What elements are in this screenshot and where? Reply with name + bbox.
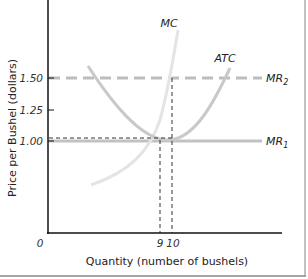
mr1-label-main: MR [266,135,283,148]
mc-label: MC [160,17,177,30]
mr2-label: MR2 [266,72,288,87]
y-tick-label-1-50: 1.50 [20,72,44,84]
chart: 1.50 1.25 1.00 Price per Bushel (dollars… [0,0,308,279]
mr1-label: MR1 [266,135,288,150]
mr2-label-sub: 2 [283,78,288,87]
y-tick-label-1-00: 1.00 [20,135,44,147]
x-tick-label-9: 9 [157,237,164,249]
mr1-label-sub: 1 [283,141,288,150]
x-tick-label-10: 10 [166,237,180,249]
x-axis-title: Quantity (number of bushels) [86,255,248,268]
y-axis-title: Price per Bushel (dollars) [6,59,19,197]
atc-label: ATC [213,52,235,65]
mc-curve [91,30,178,185]
mr2-label-main: MR [266,72,283,85]
y-tick-label-1-25: 1.25 [20,104,44,116]
origin-label: 0 [37,237,44,249]
